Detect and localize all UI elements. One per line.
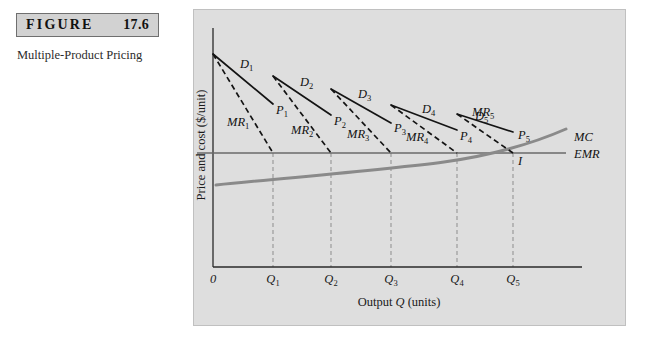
label-mr-MR3: MR3 [346, 127, 369, 143]
label-mc: MC [573, 130, 593, 144]
figure-badge-number: 17.6 [123, 17, 149, 33]
figure-caption-column: FIGURE 17.6 Multiple-Product Pricing [0, 0, 193, 349]
vertical-gridlines [273, 153, 513, 267]
figure-caption-text: Multiple-Product Pricing [17, 47, 185, 63]
label-mr-MR5: MR5 [471, 105, 494, 121]
label-mr-MR1: MR1 [226, 115, 249, 131]
figure-badge-word: FIGURE [26, 17, 94, 33]
label-price-P4: P4 [459, 129, 473, 145]
x-tick-0: 0 [210, 272, 217, 286]
figure-number-badge: FIGURE 17.6 [16, 13, 159, 37]
label-intersection-I: I [517, 154, 523, 168]
chart-panel: D1P1D2P2D3P3D4P4D5P5MR1MR2MR3MR4MR5MCEMR… [193, 9, 626, 326]
label-price-P5: P5 [517, 128, 530, 144]
label-demand-D4: D4 [421, 102, 436, 118]
label-mr-MR4: MR4 [405, 130, 429, 146]
intersection-point-I: I [517, 154, 523, 168]
y-axis-title: Price and cost ($/unit) [194, 90, 208, 201]
label-demand-D3: D3 [357, 87, 371, 103]
x-tick-Q5: Q5 [506, 272, 519, 288]
x-tick-Q3: Q3 [384, 272, 397, 288]
label-mr-MR2: MR2 [290, 123, 313, 139]
x-tick-Q4: Q4 [450, 272, 464, 288]
curve-labels-group: D1P1D2P2D3P3D4P4D5P5MR1MR2MR3MR4MR5MCEMR [226, 57, 600, 161]
multiple-product-pricing-chart: D1P1D2P2D3P3D4P4D5P5MR1MR2MR3MR4MR5MCEMR… [194, 10, 625, 325]
label-price-P1: P1 [275, 103, 288, 119]
label-price-P2: P2 [333, 114, 346, 130]
x-tick-Q2: Q2 [324, 272, 337, 288]
label-price-P3: P3 [393, 121, 406, 137]
x-axis-tick-labels: 0Q1Q2Q3Q4Q5 [210, 272, 520, 288]
x-tick-Q1: Q1 [266, 272, 279, 288]
label-demand-D1: D1 [239, 57, 253, 73]
label-emr: EMR [573, 147, 600, 161]
x-axis-title: Output Q (units) [358, 295, 441, 309]
label-demand-D2: D2 [299, 75, 313, 91]
